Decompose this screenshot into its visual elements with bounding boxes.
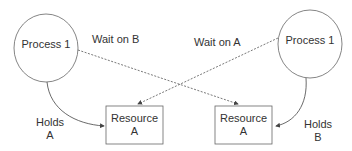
resource-left-line1: Resource bbox=[106, 112, 163, 125]
wait-on-b-label: Wait on B bbox=[92, 33, 139, 46]
holds-b-label: Holds B bbox=[298, 118, 338, 144]
holds-b-line1: Holds bbox=[298, 118, 338, 131]
holds-a-label: Holds A bbox=[30, 116, 70, 142]
resource-right-line1: Resource bbox=[215, 112, 272, 125]
resource-right-label: Resource A bbox=[215, 112, 272, 138]
process-right-label: Process 1 bbox=[278, 34, 342, 47]
holds-a-line1: Holds bbox=[30, 116, 70, 129]
deadlock-diagram: Process 1 Process 1 Resource A Resource … bbox=[0, 0, 352, 151]
wait-on-a-label: Wait on A bbox=[194, 36, 241, 49]
resource-left-line2: A bbox=[106, 125, 163, 138]
holds-a-line2: A bbox=[30, 129, 70, 142]
resource-right-line2: A bbox=[215, 125, 272, 138]
holds-b-line2: B bbox=[298, 131, 338, 144]
process-left-label: Process 1 bbox=[14, 38, 78, 51]
wait-on-b-edge bbox=[78, 50, 238, 104]
resource-left-label: Resource A bbox=[106, 112, 163, 138]
